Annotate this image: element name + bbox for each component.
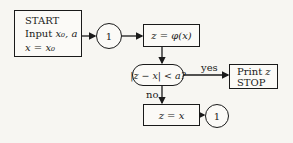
output-box: Print z STOP <box>229 64 278 89</box>
init-assignment: x = x₀ <box>25 42 55 53</box>
connector-2-label: 1 <box>214 111 220 122</box>
stop-label: STOP <box>237 77 265 88</box>
print-variable: z <box>265 66 270 77</box>
input-label: Input <box>25 28 55 39</box>
connector-1: 1 <box>96 23 122 49</box>
update-box: z = x <box>143 104 200 126</box>
iteration-box: z = φ(x) <box>143 24 200 47</box>
input-variables: x₀, a <box>55 28 77 39</box>
iteration-formula: z = φ(x) <box>151 30 191 41</box>
decision-condition: |z − x| < a? <box>130 70 186 81</box>
update-formula: z = x <box>159 110 185 121</box>
input-line: Input x₀, a <box>25 28 77 39</box>
no-label: no <box>146 89 158 100</box>
print-line: Print z <box>237 66 271 77</box>
print-label: Print <box>237 66 265 77</box>
connector-1-label: 1 <box>106 31 112 42</box>
start-label: START <box>25 15 59 26</box>
decision-box: |z − x| < a? <box>132 64 184 86</box>
yes-label: yes <box>201 62 218 73</box>
start-box: START Input x₀, a x = x₀ <box>14 10 82 57</box>
connector-2: 1 <box>205 104 229 128</box>
